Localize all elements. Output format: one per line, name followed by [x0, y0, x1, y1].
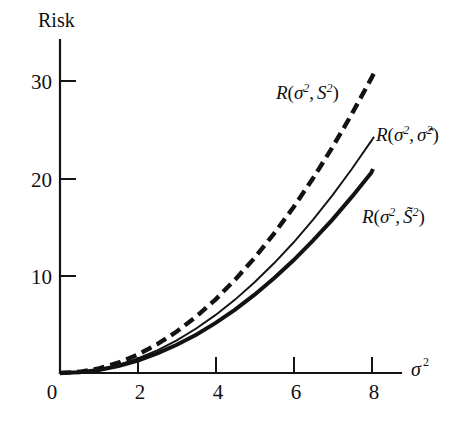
curve-label-thin: R(σ2,σ̂2) — [375, 123, 439, 146]
x-axis-title-superscript: 2 — [423, 355, 429, 369]
curve-label-dashed-text: R(σ2,S2) — [275, 81, 339, 104]
curve-label-thin-text: R(σ2,σ̂2) — [375, 123, 439, 146]
risk-function-chart: 30 20 10 0 2 4 6 8 Risk σ 2 R(σ2,S2) — [0, 0, 462, 424]
curve-label-thick-close: ) — [419, 206, 425, 228]
y-tick-label-30: 30 — [31, 70, 52, 94]
curve-label-dashed-close: ) — [333, 82, 339, 104]
x-axis-title-sigma: σ — [411, 358, 422, 380]
curve-label-dashed-comma: , — [309, 82, 314, 103]
y-tick-label-10: 10 — [31, 265, 52, 289]
x-tick-label-0: 0 — [47, 380, 58, 404]
curve-label-dashed-r: R — [275, 82, 288, 103]
curve-label-thin-r: R — [375, 124, 388, 145]
x-tick-label-6: 6 — [291, 380, 302, 404]
curve-label-dashed: R(σ2,S2) — [275, 81, 339, 104]
curve-label-thick-r: R — [361, 206, 374, 227]
curve-label-thick: R(σ2,S̃2) — [361, 205, 425, 228]
y-axis-title: Risk — [38, 9, 75, 31]
curve-thick-r-sigma2-Stilde2 — [60, 169, 373, 373]
curve-label-thick-text: R(σ2,S̃2) — [361, 205, 425, 228]
curve-label-thin-comma: , — [409, 124, 414, 145]
curve-label-thick-comma: , — [395, 206, 400, 227]
chart-svg: 30 20 10 0 2 4 6 8 Risk σ 2 R(σ2,S2) — [0, 0, 462, 424]
x-tick-label-8: 8 — [369, 380, 380, 404]
x-axis-title: σ 2 — [411, 355, 429, 380]
curve-thin-r-sigma2-sigmahat2 — [60, 137, 374, 373]
y-tick-label-20: 20 — [31, 168, 52, 192]
x-tick-label-2: 2 — [135, 380, 146, 404]
curve-label-thin-close: ) — [432, 124, 438, 146]
x-tick-label-4: 4 — [213, 380, 224, 404]
curve-label-dashed-sym: S — [317, 82, 327, 103]
